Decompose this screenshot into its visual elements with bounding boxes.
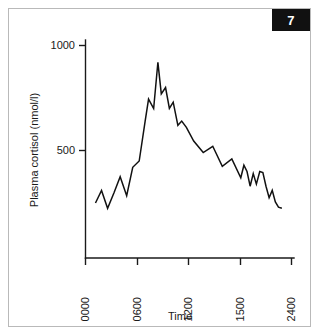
y-tick-label-1000: 1000 (51, 39, 75, 51)
figure-number-badge: 7 (272, 9, 310, 31)
x-tick-label-2400: 2400 (285, 297, 297, 321)
cortisol-series-line (95, 62, 281, 208)
x-tick-label-1500: 1500 (234, 297, 246, 321)
y-tick-label-500: 500 (57, 144, 75, 156)
x-tick-label-0600: 0600 (131, 297, 143, 321)
x-tick-label-0000: 0000 (79, 297, 91, 321)
figure-container: 7 1000 500 0000 0600 1200 1500 2400 Plas… (0, 0, 320, 336)
x-axis-title: Time (168, 310, 192, 322)
y-axis-title: Plasma cortisol (nmol/l) (28, 93, 40, 207)
chart-plot: 1000 500 0000 0600 1200 1500 2400 Plasma… (0, 0, 320, 336)
